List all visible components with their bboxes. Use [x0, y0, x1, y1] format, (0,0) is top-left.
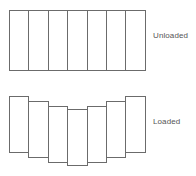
unloaded-segment — [107, 11, 126, 71]
unloaded-label: Unloaded — [153, 31, 188, 41]
diagram-root: Unloaded Loaded — [0, 0, 196, 176]
loaded-segment — [10, 97, 29, 153]
loaded-segment — [107, 102, 126, 158]
unloaded-segment — [10, 11, 29, 71]
segmented-beam-diagram — [0, 0, 196, 176]
loaded-segment — [126, 97, 145, 153]
loaded-segment — [48, 107, 67, 163]
unloaded-segment — [87, 11, 106, 71]
unloaded-panel-segments — [10, 11, 146, 71]
loaded-segment — [29, 102, 48, 158]
loaded-segment — [68, 110, 87, 166]
unloaded-segment — [126, 11, 145, 71]
unloaded-segment — [68, 11, 87, 71]
loaded-label: Loaded — [153, 117, 180, 127]
loaded-panel-segments — [10, 97, 146, 166]
unloaded-segment — [48, 11, 67, 71]
loaded-segment — [87, 107, 106, 163]
unloaded-segment — [29, 11, 48, 71]
